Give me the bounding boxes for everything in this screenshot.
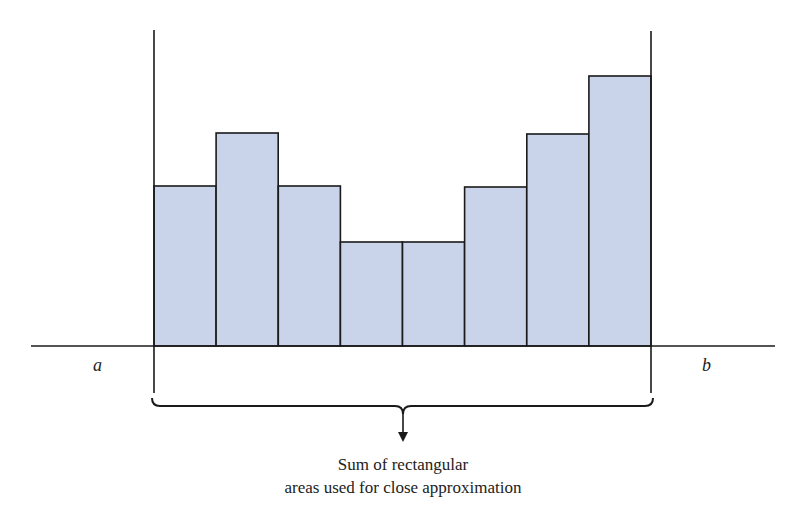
rectangles-group	[154, 76, 651, 346]
rectangle-bar	[216, 133, 278, 346]
caption-line-1: Sum of rectangular	[0, 455, 796, 475]
left-bound-label: a	[93, 355, 102, 376]
caption-line-2: areas used for close approximation	[0, 478, 796, 498]
rectangle-bar	[465, 187, 527, 346]
rectangle-bar	[340, 242, 402, 346]
rectangle-bar	[527, 134, 589, 346]
rectangle-bar	[589, 76, 651, 346]
riemann-sum-diagram	[0, 0, 796, 522]
arrow-down-icon	[398, 432, 408, 442]
rectangle-bar	[278, 186, 340, 346]
curly-brace	[152, 398, 653, 414]
rectangle-bar	[154, 186, 216, 346]
right-bound-label: b	[702, 355, 711, 376]
rectangle-bar	[403, 242, 465, 346]
